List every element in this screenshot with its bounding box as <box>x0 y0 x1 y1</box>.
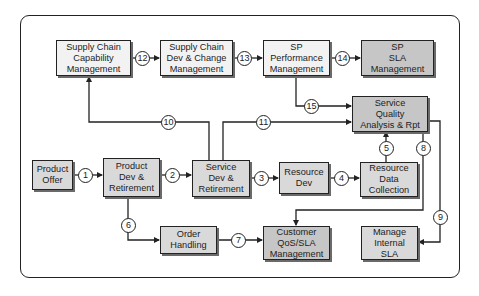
flow-badge-5: 5 <box>379 141 394 156</box>
box-label: Manage Internal SLA <box>373 227 406 260</box>
flow-badge-6: 6 <box>121 218 136 233</box>
box-label: Resource Dev <box>284 167 323 189</box>
box-label: Service Dev & Retirement <box>199 162 244 195</box>
flow-badge-13: 13 <box>237 51 252 66</box>
flow-badge-12: 12 <box>135 51 150 66</box>
box-label: SP Performance Management <box>270 42 324 75</box>
box-service-quality-analysis: Service Quality Analysis & Rpt <box>352 96 428 132</box>
flow-badge-2: 2 <box>165 168 180 183</box>
box-label: Supply Chain Capability Management <box>66 42 121 75</box>
flow-badge-4: 4 <box>334 171 349 186</box>
box-sp-performance-management: SP Performance Management <box>263 40 330 76</box>
box-resource-dev: Resource Dev <box>279 162 329 194</box>
box-product-offer: Product Offer <box>32 160 73 190</box>
box-label: Order Handling <box>170 229 206 251</box>
box-product-dev-retirement: Product Dev & Retirement <box>103 158 160 197</box>
box-supply-chain-dev-change-management: Supply Chain Dev & Change Management <box>160 40 233 76</box>
box-label: Customer QoS/SLA Management <box>270 227 324 260</box>
box-label: Service Quality Analysis & Rpt <box>360 98 420 131</box>
flow-badge-3: 3 <box>254 171 269 186</box>
box-sp-sla-management: SP SLA Management <box>361 40 434 76</box>
flow-badge-7: 7 <box>231 233 246 248</box>
box-label: Product Offer <box>37 164 69 186</box>
box-supply-chain-capability-management: Supply Chain Capability Management <box>56 40 131 76</box>
box-manage-internal-sla: Manage Internal SLA <box>361 226 418 260</box>
flow-badge-15: 15 <box>304 99 319 114</box>
box-customer-qos-sla-management: Customer QoS/SLA Management <box>263 226 330 260</box>
flow-badge-9: 9 <box>433 210 448 225</box>
box-label: SP SLA Management <box>371 42 425 75</box>
box-label: Product Dev & Retirement <box>109 161 154 194</box>
box-resource-data-collection: Resource Data Collection <box>360 162 418 197</box>
box-label: Supply Chain Dev & Change Management <box>167 42 227 75</box>
flow-badge-1: 1 <box>78 168 93 183</box>
flow-badge-8: 8 <box>416 141 431 156</box>
flow-badge-14: 14 <box>335 51 350 66</box>
flow-badge-10: 10 <box>161 115 176 130</box>
box-order-handling: Order Handling <box>160 226 217 254</box>
box-service-dev-retirement: Service Dev & Retirement <box>192 160 250 197</box>
flow-badge-11: 11 <box>256 115 271 130</box>
box-label: Resource Data Collection <box>369 163 409 196</box>
